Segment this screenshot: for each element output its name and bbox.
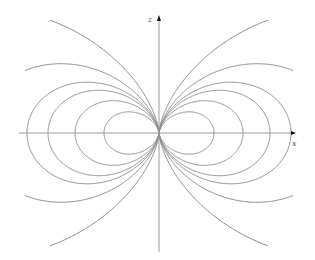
dipole-field-diagram: x z [0, 0, 315, 260]
x-axis-arrow-icon [291, 131, 296, 135]
z-axis-arrow-icon [157, 15, 161, 21]
axes: x z [19, 15, 297, 252]
z-axis-label: z [147, 15, 153, 24]
x-axis-label: x [292, 139, 297, 148]
